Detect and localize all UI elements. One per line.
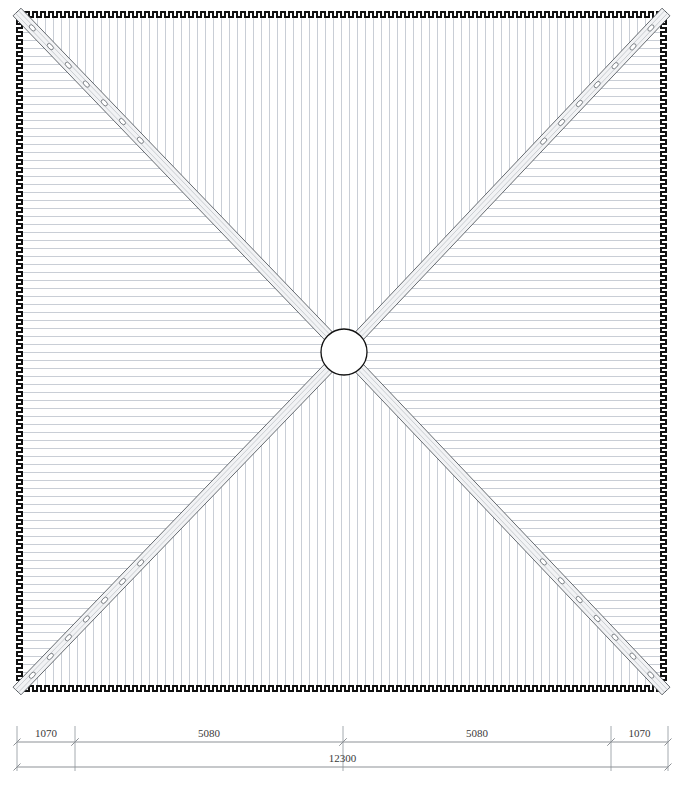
bottom-dimension-stack xyxy=(14,726,672,771)
dimension-value: 5080 xyxy=(198,727,221,739)
center-hub-ring xyxy=(321,329,367,375)
roof-plan-svg: 107050805080107012300 xyxy=(0,0,684,785)
roof-plan-drawing: 107050805080107012300 xyxy=(0,0,684,785)
segment-dimension-row xyxy=(14,739,672,746)
dimension-value: 1070 xyxy=(35,727,58,739)
dimension-value: 1070 xyxy=(629,727,652,739)
dimension-value: 5080 xyxy=(466,727,489,739)
overall-dimension-row xyxy=(14,764,672,771)
dimension-value: 12300 xyxy=(329,752,357,764)
